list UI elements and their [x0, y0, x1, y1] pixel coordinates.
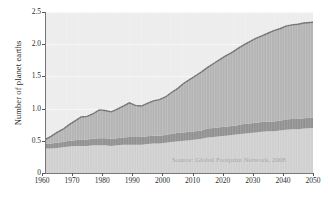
x-tick-mark — [193, 173, 194, 176]
x-tick-label: 2030 — [236, 176, 270, 185]
chart-figure: Number of planet earths 2.52.01.51.00.50… — [0, 0, 328, 200]
y-tick-mark — [42, 109, 45, 110]
y-tick-label: 2.0 — [19, 39, 41, 48]
x-tick-mark — [72, 173, 73, 176]
y-tick-mark — [42, 76, 45, 77]
x-tick-label: 2050 — [296, 176, 328, 185]
y-tick-label: 2.5 — [19, 7, 41, 16]
plot-area — [45, 12, 313, 173]
x-tick-mark — [253, 173, 254, 176]
x-tick-label: 2020 — [206, 176, 240, 185]
x-tick-mark — [313, 173, 314, 176]
x-tick-mark — [102, 173, 103, 176]
x-tick-mark — [132, 173, 133, 176]
x-tick-mark — [223, 173, 224, 176]
y-axis-label: Number of planet earths — [13, 18, 23, 148]
x-tick-mark — [162, 173, 163, 176]
x-tick-label: 1980 — [85, 176, 119, 185]
y-tick-mark — [42, 12, 45, 13]
source-annotation: Source: Global Footprint Network, 2008 — [172, 156, 286, 164]
y-tick-label: 1.0 — [19, 104, 41, 113]
x-tick-label: 1970 — [55, 176, 89, 185]
y-tick-mark — [42, 44, 45, 45]
x-tick-label: 2000 — [145, 176, 179, 185]
x-tick-label: 1990 — [115, 176, 149, 185]
x-tick-mark — [42, 173, 43, 176]
x-tick-label: 2040 — [266, 176, 300, 185]
y-tick-mark — [42, 141, 45, 142]
x-axis-line — [45, 173, 314, 174]
area-chart-svg — [45, 12, 313, 173]
y-tick-label: 1.5 — [19, 71, 41, 80]
x-tick-label: 2010 — [176, 176, 210, 185]
x-tick-mark — [283, 173, 284, 176]
x-tick-label: 1960 — [25, 176, 59, 185]
y-axis-line — [45, 12, 46, 174]
y-tick-label: 0.5 — [19, 136, 41, 145]
